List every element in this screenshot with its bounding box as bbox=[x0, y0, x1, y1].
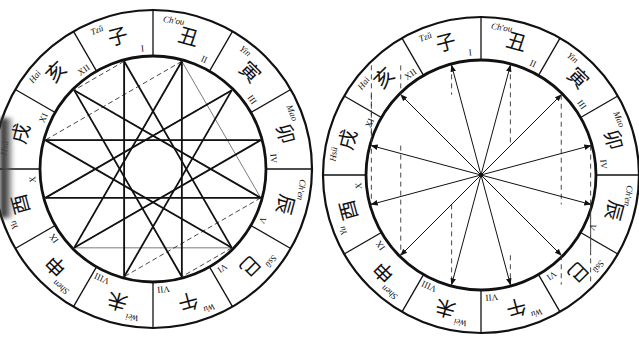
left-wheel-star-pattern: 子TzŭI丑Ch'ouII寅YinIII卯MaoIV辰Ch'enV巳SsŭVI午… bbox=[0, 10, 312, 328]
radial-arrow bbox=[481, 146, 591, 175]
bold-chord bbox=[74, 90, 182, 277]
branch-numeral: II bbox=[528, 58, 538, 70]
branch-character: 午 bbox=[176, 287, 202, 315]
branch-numeral: I bbox=[141, 43, 145, 53]
branch-character: 亥 bbox=[41, 57, 72, 88]
branch-character: 巳 bbox=[563, 257, 594, 288]
branch-numeral: VII bbox=[485, 292, 498, 303]
right-wheel-radial-arrows: 子TzŭI丑Ch'ouII寅YinIII卯MaoIV辰Ch'enV巳SsŭVI午… bbox=[323, 17, 639, 333]
branch-numeral: III bbox=[245, 93, 258, 106]
branch-romanized-name: Ch'en bbox=[295, 179, 308, 202]
left-wheel-sector-iv: 卯MaoIV bbox=[268, 102, 300, 164]
right-wheel-sector-divider bbox=[581, 233, 618, 255]
branch-numeral: V bbox=[257, 215, 269, 226]
branch-character: 巳 bbox=[234, 250, 265, 281]
branch-romanized-name: Yu bbox=[336, 224, 349, 236]
right-wheel-sector-i: 子TzŭI bbox=[417, 28, 472, 58]
branch-numeral: XI bbox=[363, 117, 376, 130]
branch-character: 卯 bbox=[271, 121, 299, 147]
radial-arrow bbox=[481, 65, 510, 175]
radial-arrow bbox=[371, 175, 481, 204]
radial-arrow bbox=[481, 175, 561, 255]
bold-chord bbox=[45, 90, 232, 198]
branch-romanized-name: Ch'en bbox=[622, 185, 635, 208]
branch-romanized-name: Tzŭ bbox=[417, 30, 433, 44]
radial-arrow bbox=[371, 146, 481, 175]
branch-numeral: II bbox=[199, 54, 209, 66]
branch-character: 卯 bbox=[600, 127, 628, 153]
left-wheel-sector-divider bbox=[210, 31, 233, 71]
branch-romanized-name: Hsü bbox=[327, 146, 339, 163]
bold-chord bbox=[45, 140, 232, 248]
radial-arrow bbox=[481, 175, 591, 204]
left-wheel-sector-divider bbox=[74, 267, 97, 307]
bold-chord bbox=[74, 140, 261, 248]
left-wheel-sector-vii: 午WuVII bbox=[157, 284, 217, 315]
right-wheel-sector-x: 酉YuX bbox=[334, 182, 364, 237]
branch-character: 午 bbox=[504, 294, 530, 322]
radial-arrow bbox=[401, 95, 481, 175]
branch-character: 未 bbox=[105, 287, 131, 315]
branch-character: 子 bbox=[105, 22, 131, 50]
branch-character: 寅 bbox=[563, 62, 594, 93]
branch-numeral: III bbox=[575, 98, 588, 111]
branch-numeral: XI bbox=[37, 111, 50, 124]
center-point bbox=[479, 173, 483, 177]
right-wheel-sector-iv: 卯MaoIV bbox=[598, 109, 628, 170]
branch-romanized-name: Tzŭ bbox=[89, 23, 105, 37]
branch-numeral: IV bbox=[268, 153, 279, 164]
radial-arrow bbox=[481, 95, 561, 175]
branch-character: 子 bbox=[433, 28, 459, 56]
branch-numeral: X bbox=[27, 175, 38, 183]
twelve-branches-figure: 子TzŭI丑Ch'ouII寅YinIII卯MaoIV辰Ch'enV巳SsŭVI午… bbox=[0, 0, 639, 343]
branch-romanized-name: Wei bbox=[124, 312, 139, 324]
radial-arrow bbox=[401, 175, 481, 255]
left-wheel-sector-divider bbox=[251, 226, 291, 249]
bold-chord bbox=[74, 61, 182, 248]
right-wheel-sector-divider bbox=[344, 96, 381, 118]
right-wheel-sector-vii: 午WuVII bbox=[485, 292, 544, 322]
radial-arrow bbox=[452, 65, 481, 175]
branch-character: 亥 bbox=[368, 62, 399, 93]
bold-chord bbox=[124, 61, 232, 248]
branch-romanized-name: Wei bbox=[453, 317, 468, 329]
radial-arrow bbox=[452, 175, 481, 285]
branch-numeral: X bbox=[353, 182, 364, 190]
branch-romanized-name: Ch'ou bbox=[163, 14, 186, 27]
scan-shadow bbox=[0, 118, 14, 218]
branch-character: 申 bbox=[41, 250, 72, 281]
branch-numeral: V bbox=[586, 222, 598, 233]
branch-romanized-name: Ch'ou bbox=[490, 21, 513, 34]
bold-chord bbox=[124, 90, 232, 277]
right-wheel-sector-viii: 未WeiVIII bbox=[420, 279, 468, 329]
branch-numeral: IV bbox=[598, 159, 609, 170]
bold-chord bbox=[74, 90, 261, 198]
branch-character: 申 bbox=[368, 257, 399, 288]
right-wheel-sector-divider bbox=[402, 275, 424, 312]
left-wheel-sector-divider bbox=[15, 90, 55, 113]
right-wheel-sector-ix: 申ShenIX bbox=[368, 238, 399, 301]
left-wheel-sector-i: 子TzŭI bbox=[89, 22, 144, 53]
branch-numeral: VII bbox=[157, 284, 170, 295]
radial-arrow bbox=[481, 175, 510, 285]
branch-character: 辰 bbox=[271, 192, 299, 218]
wheels-svg: 子TzŭI丑Ch'ouII寅YinIII卯MaoIV辰Ch'enV巳SsŭVI午… bbox=[0, 0, 639, 343]
branch-romanized-name: Wu bbox=[202, 301, 217, 315]
branch-character: 丑 bbox=[176, 22, 202, 50]
branch-romanized-name: Wu bbox=[529, 306, 544, 320]
branch-romanized-name: Yu bbox=[7, 219, 20, 231]
right-wheel-sector-divider bbox=[539, 38, 561, 75]
branch-character: 酉 bbox=[334, 198, 362, 224]
branch-numeral: I bbox=[468, 47, 472, 57]
branch-character: 寅 bbox=[234, 57, 265, 88]
